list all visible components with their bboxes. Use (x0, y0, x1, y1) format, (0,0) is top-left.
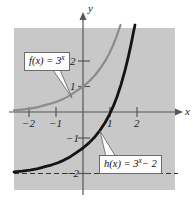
y-axis-arrow (80, 12, 87, 20)
x-tick-label-pos1: 1 (107, 118, 113, 129)
exponential-functions-figure: x y −2 −1 1 2 2 1 −1 −2 f(x) = 3x h(x) =… (0, 0, 193, 203)
x-axis-arrow (175, 109, 183, 116)
y-tick-label-pos2: 2 (70, 56, 76, 67)
y-axis-label: y (88, 3, 93, 14)
x-tick-label-pos2: 2 (134, 118, 140, 129)
x-axis-label: x (185, 106, 190, 117)
f-function-callout: f(x) = 3x (24, 52, 70, 71)
h-callout-text: h(x) = 3 (104, 158, 139, 169)
f-callout-exponent: x (61, 53, 64, 62)
h-callout-suffix: − 2 (142, 158, 157, 169)
x-tick-label-neg1: −1 (49, 118, 62, 129)
curve-h (14, 25, 135, 172)
x-tick-label-neg2: −2 (22, 118, 35, 129)
plot-canvas (0, 0, 193, 203)
h-function-callout: h(x) = 3x− 2 (99, 155, 162, 174)
f-callout-text: f(x) = 3 (29, 55, 61, 66)
y-tick-label-pos1: 1 (70, 81, 76, 92)
h-callout-pointer (100, 131, 116, 157)
y-tick-label-neg1: −1 (66, 133, 79, 144)
y-tick-label-neg2: −2 (66, 168, 79, 179)
